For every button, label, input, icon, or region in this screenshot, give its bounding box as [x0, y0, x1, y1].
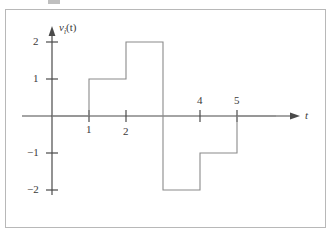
y-axis-label-argument: (t) [66, 21, 76, 33]
x-tick-label-4: 4 [197, 95, 203, 106]
y-tick-label-2: 2 [33, 36, 39, 47]
x-tick-label-1: 1 [86, 124, 92, 135]
x-axis-label: t [305, 110, 308, 121]
y-tick-label-1: 1 [33, 73, 39, 84]
y-axis-label: vi(t) [59, 22, 76, 36]
y-tick-label-minus-2: −2 [27, 184, 39, 195]
x-tick-label-2: 2 [123, 126, 129, 137]
plot-canvas [0, 0, 332, 228]
x-tick-label-5: 5 [234, 95, 240, 106]
y-tick-label-minus-1: −1 [27, 147, 39, 158]
y-axis-arrowhead [49, 26, 56, 36]
figure-root: vi(t) t 2 1 −1 −2 1 2 4 5 [0, 0, 332, 228]
x-axis-arrowhead [290, 113, 300, 120]
